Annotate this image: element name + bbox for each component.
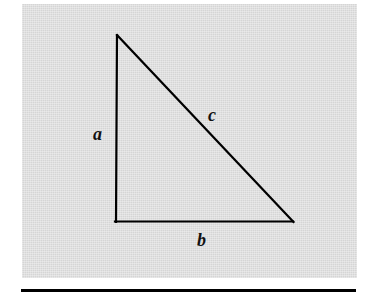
figure-root: a b c (0, 0, 376, 301)
side-label-c: c (208, 106, 216, 124)
side-label-b: b (197, 231, 206, 249)
triangle-side-c-hypotenuse (117, 35, 294, 222)
triangle-graphic (0, 0, 376, 301)
horizontal-divider-rule (21, 289, 356, 292)
triangle-side-a-vertical-leg (116, 35, 117, 222)
side-label-a: a (93, 125, 102, 143)
